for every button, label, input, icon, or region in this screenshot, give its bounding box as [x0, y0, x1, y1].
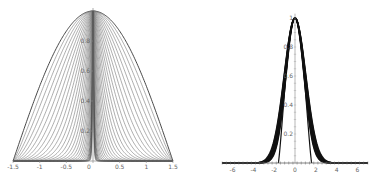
right-x-tick-label: -2	[271, 166, 277, 173]
right-chart-canvas: -6-4-202460.20.40.60.81	[190, 0, 379, 185]
left-chart-canvas: -1.5-1-0.500.511.50.20.40.60.8	[0, 0, 190, 185]
left-x-tick-label: -1	[37, 163, 43, 170]
left-y-tick-label: 0.4	[80, 97, 90, 104]
right-y-tick-label: 0.4	[283, 101, 293, 108]
right-x-tick-label: -6	[230, 166, 236, 173]
right-y-tick-label: 0.2	[283, 130, 293, 137]
right-x-tick-label: 2	[314, 166, 318, 173]
left-x-tick-label: 0.5	[115, 163, 125, 170]
left-y-tick-label: 0.8	[80, 37, 90, 44]
left-x-tick-label: 0	[87, 163, 91, 170]
right-y-tick-label: 1	[289, 14, 293, 21]
right-x-tick-label: 0	[293, 166, 297, 173]
right-x-tick-label: 6	[355, 166, 359, 173]
left-x-tick-label: 1	[144, 163, 148, 170]
right-chart: -6-4-202460.20.40.60.81	[190, 0, 379, 185]
left-y-tick-label: 0.2	[80, 127, 90, 134]
left-x-tick-label: -0.5	[60, 163, 72, 170]
left-x-tick-label: 1.5	[168, 163, 178, 170]
left-y-tick-label: 0.6	[80, 67, 90, 74]
left-chart: -1.5-1-0.500.511.50.20.40.60.8	[0, 0, 190, 185]
right-y-tick-label: 0.8	[283, 43, 293, 50]
right-y-tick-label: 0.6	[283, 72, 293, 79]
right-x-tick-label: 4	[335, 166, 339, 173]
right-x-tick-label: -4	[250, 166, 256, 173]
left-x-tick-label: -1.5	[7, 163, 19, 170]
